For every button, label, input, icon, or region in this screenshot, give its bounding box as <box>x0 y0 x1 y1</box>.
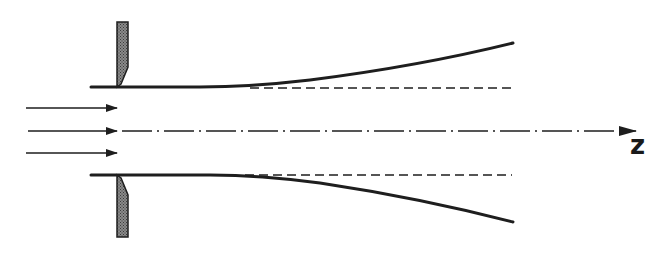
bottom-electrode <box>117 175 128 237</box>
inflow-arrows <box>26 108 117 153</box>
top-wall <box>91 43 513 87</box>
bottom-wall <box>91 175 513 222</box>
beam-diagram <box>0 0 672 254</box>
z-axis-label: z <box>630 132 645 158</box>
top-electrode <box>117 22 128 87</box>
